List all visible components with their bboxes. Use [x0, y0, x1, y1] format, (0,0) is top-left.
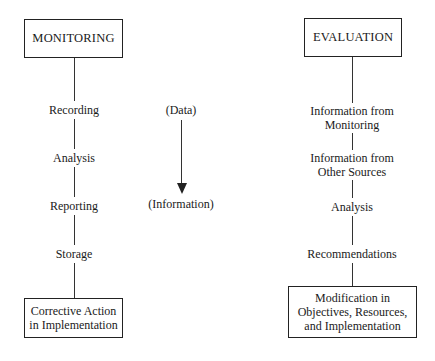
monitoring-step-recording: Recording [48, 101, 100, 119]
evaluation-step-info-other-sources: Information from Other Sources [308, 150, 396, 180]
evaluation-step-info-other-line1: Information from [310, 151, 394, 165]
evaluation-step-info-monitoring-line2: Monitoring [310, 118, 394, 132]
flow-start-data: (Data) [166, 103, 197, 117]
evaluation-step-recommendations: Recommendations [306, 245, 397, 263]
corrective-action-line1: Corrective Action [31, 304, 117, 318]
evaluation-title-box: EVALUATION [304, 18, 402, 57]
modification-line2: Objectives, Resources, [298, 305, 408, 319]
monitoring-step-analysis: Analysis [52, 149, 96, 167]
monitoring-step-reporting: Reporting [49, 197, 99, 215]
flow-arrow-shaft [181, 120, 182, 185]
modification-line1: Modification in [315, 291, 390, 305]
evaluation-step-info-monitoring: Information from Monitoring [308, 103, 396, 133]
evaluation-title: EVALUATION [313, 30, 393, 45]
modification-line3: and Implementation [304, 319, 400, 333]
corrective-action-line2: in Implementation [29, 318, 117, 332]
corrective-action-box: Corrective Action in Implementation [24, 298, 123, 338]
evaluation-step-info-other-line2: Other Sources [310, 165, 394, 179]
flow-end-information: (Information) [148, 197, 213, 211]
monitoring-title: MONITORING [32, 31, 114, 46]
monitoring-step-storage: Storage [55, 245, 94, 263]
evaluation-step-info-monitoring-line1: Information from [310, 104, 394, 118]
evaluation-step-analysis: Analysis [330, 198, 374, 216]
modification-box: Modification in Objectives, Resources, a… [288, 286, 417, 338]
monitoring-title-box: MONITORING [24, 19, 123, 58]
down-arrow-icon [177, 183, 187, 194]
